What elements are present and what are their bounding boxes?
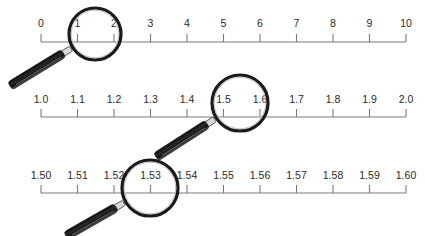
tick-label: 2.0 [399, 93, 414, 105]
tick-label: 1.54 [177, 169, 198, 181]
tick-label: 9 [367, 17, 373, 29]
tick-label: 1.1 [70, 93, 85, 105]
tick-label: 1.8 [326, 93, 341, 105]
tick-label: 1.0 [34, 93, 49, 105]
magnifying-glass-icon [154, 75, 268, 161]
magnifier-handle [64, 203, 119, 236]
tick-label: 3 [148, 17, 154, 29]
tick-label: 1.56 [250, 169, 271, 181]
tick-label: 1.60 [396, 169, 417, 181]
tick-label: 1.52 [104, 169, 125, 181]
number-line-magnifier-diagram: 0123456789101.01.11.21.31.41.51.61.71.81… [0, 0, 425, 236]
tick-label: 4 [184, 17, 190, 29]
tick-label: 1.7 [289, 93, 304, 105]
tick-label: 5 [221, 17, 227, 29]
magnifying-glass-icon [8, 8, 121, 90]
ruler-hundredths: 1.501.511.521.531.541.551.561.571.581.59… [31, 169, 417, 193]
tick-label: 1.51 [67, 169, 88, 181]
magnifier-handle [154, 120, 210, 160]
tick-label: 10 [400, 17, 412, 29]
tick-label: 0 [38, 17, 44, 29]
tick-label: 8 [330, 17, 336, 29]
tick-label: 7 [294, 17, 300, 29]
tick-label: 1.3 [143, 93, 158, 105]
tick-label: 6 [257, 17, 263, 29]
tick-label: 1.2 [107, 93, 122, 105]
tick-label: 1.55 [213, 169, 234, 181]
tick-label: 1.4 [180, 93, 195, 105]
tick-label: 1.9 [362, 93, 377, 105]
tick-label: 1.59 [359, 169, 380, 181]
tick-label: 1.58 [323, 169, 344, 181]
tick-label: 1.57 [286, 169, 307, 181]
tick-label: 1.50 [31, 169, 52, 181]
